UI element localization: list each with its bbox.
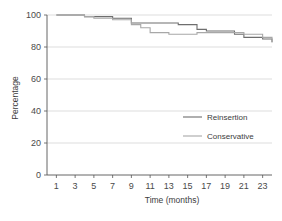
x-tick-label: 19 [220,181,230,191]
x-tick-label: 11 [145,181,154,191]
x-tick-label: 5 [91,181,96,191]
x-tick-label: 15 [183,181,193,191]
series-line-conservative [56,15,272,42]
y-tick-label: 0 [36,170,41,180]
x-tick-label: 3 [73,181,78,191]
x-tick-label: 9 [129,181,134,191]
series-line-reinsertion [56,15,272,42]
y-tick-label: 60 [31,74,41,84]
legend-label-conservative: Conservative [207,132,254,141]
x-tick-label: 7 [110,181,115,191]
x-tick-label: 13 [164,181,174,191]
y-axis-ticks: 020406080100 [26,10,47,180]
x-tick-label: 1 [54,181,59,191]
y-axis-title: Percentage [10,76,20,120]
y-tick-label: 80 [31,42,41,52]
data-series-group [56,15,272,42]
legend-label-reinsertion: Reinsertion [207,113,247,122]
x-tick-label: 21 [239,181,249,191]
y-tick-label: 20 [31,138,41,148]
x-tick-label: 23 [258,181,268,191]
x-axis-title: Time (months) [145,195,200,205]
survival-curve-chart: 020406080100 1357911131517192123 Time (m… [0,0,282,221]
legend: ReinsertionConservative [183,113,254,141]
y-tick-label: 40 [31,106,41,116]
x-axis-ticks: 1357911131517192123 [54,175,268,191]
y-tick-label: 100 [26,10,41,20]
chart-container: 020406080100 1357911131517192123 Time (m… [0,0,282,221]
x-tick-label: 17 [201,181,211,191]
